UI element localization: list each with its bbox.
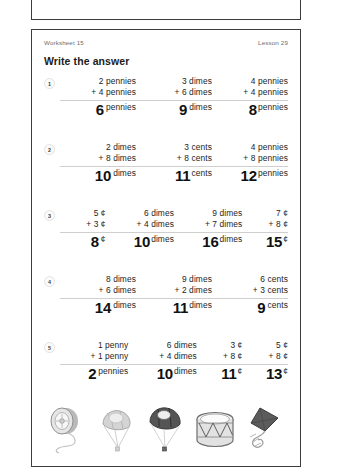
problem-column: 8 dimes + 6 dimes 14 dimes [60, 274, 136, 315]
problem-column: 2 pennies + 4 pennies 6 pennies [60, 76, 136, 117]
instruction-heading: Write the answer [44, 55, 288, 67]
answer-unit: dimes [174, 366, 197, 376]
first-addend: 2 pennies [99, 76, 136, 87]
first-addend: 9 dimes [182, 274, 212, 285]
addition-problem: 6 dimes + 4 dimes 10 dimes [128, 340, 196, 381]
answer-group[interactable]: 14 dimes [95, 300, 136, 315]
illustration-strip [44, 402, 288, 458]
drum-icon [191, 404, 239, 458]
second-addend: + 4 pennies [243, 87, 288, 98]
answer-value: 11 [173, 300, 188, 315]
answer-value: 10 [134, 234, 150, 249]
answer-group[interactable]: 13 ¢ [266, 366, 288, 381]
sum-rule [136, 166, 212, 167]
answer-group[interactable]: 12 pennies [241, 168, 288, 183]
problem-column: 4 pennies + 8 pennies 12 pennies [212, 142, 288, 183]
answer-unit: dimes [189, 102, 212, 112]
first-addend: 3 cents [184, 142, 212, 153]
problem-column: 3 ¢ + 8 ¢ 11 ¢ [197, 340, 243, 381]
problem-columns: 5 ¢ + 3 ¢ 8 ¢ 6 dimes + 4 dimes [60, 208, 288, 249]
answer-value: 9 [257, 300, 265, 315]
problem-column: 5 ¢ + 8 ¢ 13 ¢ [242, 340, 288, 381]
addition-problem: 2 dimes + 8 dimes 10 dimes [60, 142, 136, 183]
problem-column: 1 penny + 1 penny 2 pennies [60, 340, 128, 381]
answer-group[interactable]: 11 dimes [173, 300, 212, 315]
problem-column: 4 pennies + 4 pennies 8 pennies [212, 76, 288, 117]
problem-number: 1 [44, 78, 55, 89]
second-addend: + 4 dimes [159, 351, 196, 362]
answer-unit: dimes [189, 300, 212, 310]
answer-group[interactable]: 11 cents [175, 168, 212, 183]
answer-group[interactable]: 15 ¢ [266, 234, 288, 249]
answer-unit: dimes [151, 234, 174, 244]
answer-unit: cents [267, 300, 288, 310]
addition-problem: 6 cents + 3 cents 9 cents [212, 274, 288, 315]
first-addend: 1 penny [98, 340, 129, 351]
problem-column: 9 dimes + 7 dimes 16 dimes [174, 208, 242, 249]
answer-value: 15 [266, 234, 282, 249]
second-addend: + 4 pennies [91, 87, 136, 98]
answer-value: 6 [96, 102, 104, 117]
answer-group[interactable]: 16 dimes [202, 234, 242, 249]
answer-group[interactable]: 10 dimes [95, 168, 136, 183]
answer-value: 11 [175, 168, 190, 183]
answer-group[interactable]: 10 dimes [134, 234, 174, 249]
problem-row: 5 1 penny + 1 penny 2 pennies [44, 340, 288, 400]
answer-group[interactable]: 10 dimes [157, 366, 197, 381]
first-addend: 2 dimes [106, 142, 136, 153]
kite-icon [240, 404, 288, 458]
dark-parachute-icon [142, 404, 190, 458]
problem-columns: 1 penny + 1 penny 2 pennies 6 dimes + 4 … [60, 340, 288, 381]
problem-column: 6 dimes + 4 dimes 10 dimes [106, 208, 174, 249]
second-addend: + 8 ¢ [269, 351, 288, 362]
second-addend: + 7 dimes [205, 219, 242, 230]
problem-column: 7 ¢ + 8 ¢ 15 ¢ [242, 208, 288, 249]
answer-value: 16 [202, 234, 218, 249]
first-addend: 4 pennies [251, 142, 288, 153]
first-addend: 4 pennies [251, 76, 288, 87]
worksheet-label: Worksheet 15 [44, 39, 84, 46]
answer-group[interactable]: 8 pennies [249, 102, 288, 117]
problem-column: 5 ¢ + 3 ¢ 8 ¢ [60, 208, 106, 249]
answer-value: 10 [157, 366, 173, 381]
addition-problem: 5 ¢ + 8 ¢ 13 ¢ [242, 340, 288, 381]
addition-problem: 7 ¢ + 8 ¢ 15 ¢ [242, 208, 288, 249]
answer-value: 2 [88, 366, 96, 381]
problem-row: 2 2 dimes + 8 dimes 10 dimes 3 [44, 142, 288, 208]
problem-number: 2 [44, 144, 55, 155]
problem-number: 5 [44, 342, 55, 353]
problem-column: 3 dimes + 6 dimes 9 dimes [136, 76, 212, 117]
answer-group[interactable]: 2 pennies [88, 366, 128, 381]
problem-columns: 2 pennies + 4 pennies 6 pennies 3 dimes … [60, 76, 288, 117]
first-addend: 5 ¢ [94, 208, 106, 219]
first-addend: 7 ¢ [276, 208, 288, 219]
addition-problem: 3 ¢ + 8 ¢ 11 ¢ [197, 340, 243, 381]
answer-group[interactable]: 9 cents [257, 300, 288, 315]
answer-unit: pennies [106, 102, 136, 112]
addition-problem: 4 pennies + 8 pennies 12 pennies [212, 142, 288, 183]
answer-group[interactable]: 6 pennies [96, 102, 136, 117]
answer-unit: ¢ [283, 366, 288, 376]
second-addend: + 2 dimes [175, 285, 212, 296]
answer-group[interactable]: 11 ¢ [221, 366, 242, 381]
answer-unit: ¢ [283, 234, 288, 244]
answer-unit: dimes [113, 300, 136, 310]
sum-rule [212, 298, 288, 299]
answer-unit: pennies [258, 102, 288, 112]
problem-row: 1 2 pennies + 4 pennies 6 pennies [44, 76, 288, 142]
answer-unit: cents [191, 168, 212, 178]
second-addend: + 8 pennies [243, 153, 288, 164]
addition-problem: 1 penny + 1 penny 2 pennies [60, 340, 128, 381]
problem-row: 3 5 ¢ + 3 ¢ 8 ¢ 6 dimes [44, 208, 288, 274]
answer-unit: pennies [98, 366, 128, 376]
answer-group[interactable]: 8 ¢ [91, 234, 106, 249]
problem-number: 3 [44, 210, 55, 221]
addition-problem: 9 dimes + 2 dimes 11 dimes [136, 274, 212, 315]
answer-value: 8 [91, 234, 99, 249]
answer-unit: dimes [113, 168, 136, 178]
answer-group[interactable]: 9 dimes [179, 102, 212, 117]
worksheet-header: Worksheet 15 Lesson 29 [44, 39, 288, 46]
problem-number: 4 [44, 276, 55, 287]
first-addend: 6 dimes [167, 340, 197, 351]
first-addend: 9 dimes [212, 208, 242, 219]
